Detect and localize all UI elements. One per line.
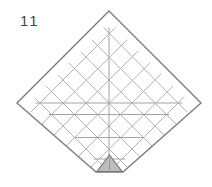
crease-line-diagonal [92, 40, 176, 124]
crease-line-diagonal [54, 51, 138, 135]
origami-step-figure: 11 [0, 0, 212, 187]
crease-line-diagonal [104, 28, 187, 112]
crease-line-diagonal [78, 74, 161, 157]
crease-line-diagonal [31, 28, 115, 112]
crease-line-diagonal [81, 52, 164, 135]
crease-line-diagonal [35, 98, 109, 172]
crease-line-diagonal [69, 63, 152, 146]
crease-line-diagonal [42, 40, 127, 124]
crease-line-diagonal [66, 63, 150, 146]
crease-line-diagonal [58, 75, 140, 157]
origami-diagram [0, 0, 212, 187]
